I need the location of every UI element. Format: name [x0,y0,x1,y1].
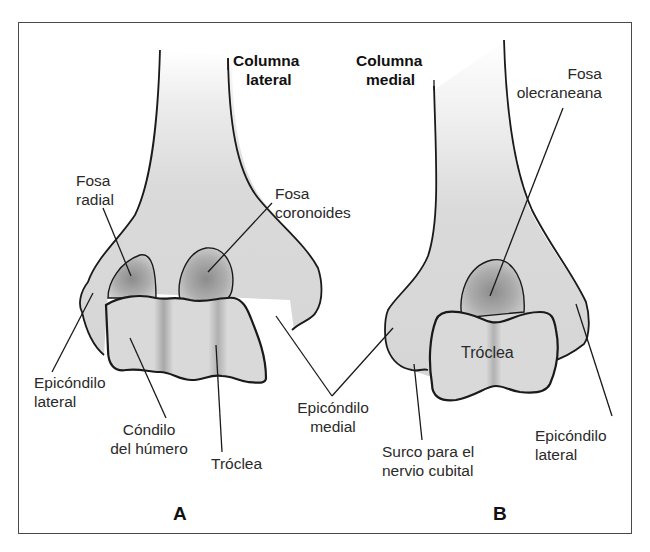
panel-letter-b: B [493,503,507,525]
label-columna-lateral: Columna lateral [233,51,299,89]
label-fosa-olecraneana: Fosa olecraneana [510,64,602,102]
label-fosa-coronoides: Fosa coronoides [275,184,351,222]
label-troclea-b: Tróclea [461,343,514,362]
label-surco-nervio-cubital: Surco para el nervio cubital [382,442,474,480]
label-fosa-radial: Fosa radial [76,171,114,209]
panel-letter-a: A [173,503,187,525]
label-epicondilo-lateral-b: Epicóndilo lateral [535,426,607,464]
label-columna-medial: Columna medial [356,51,422,89]
humerus-diagram: Columna lateral Fosa radial Fosa coronoi… [0,0,650,552]
label-epicondilo-lateral-a: Epicóndilo lateral [34,373,106,411]
label-condilo-humero: Cóndilo del húmero [94,420,204,458]
label-epicondilo-medial: Epicóndilo medial [288,398,378,436]
label-troclea-a: Tróclea [211,454,262,473]
